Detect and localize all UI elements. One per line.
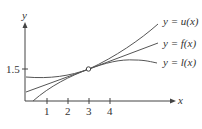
tick-label-1-5: 1.5 bbox=[6, 63, 20, 75]
y-axis-label: y bbox=[21, 9, 27, 21]
tick-label-3: 3 bbox=[86, 105, 92, 117]
y-axis-arrow-icon bbox=[23, 22, 28, 28]
x-axis-label: x bbox=[177, 94, 183, 106]
chart: y x 1 2 3 4 1.5 y = u(x) y = f(x) y = l(… bbox=[0, 0, 202, 129]
legend-l: y = l(x) bbox=[162, 56, 196, 69]
tick-label-1: 1 bbox=[44, 105, 50, 117]
legend-u: y = u(x) bbox=[162, 15, 199, 28]
legend-f: y = f(x) bbox=[162, 37, 196, 50]
curve-u bbox=[33, 24, 158, 101]
x-axis-arrow-icon bbox=[170, 99, 176, 104]
curve-l bbox=[26, 60, 157, 78]
tick-label-4: 4 bbox=[107, 105, 113, 117]
tick-label-2: 2 bbox=[65, 105, 71, 117]
point-marker bbox=[86, 67, 90, 71]
